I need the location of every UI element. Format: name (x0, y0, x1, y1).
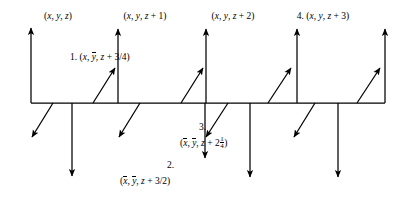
top-label-pos-3: 4. (x, y, z + 3) (297, 11, 349, 22)
down-diagonal-arrow-2 (206, 103, 228, 137)
screw-axis-diagram: (x, y, z) (x, y, z + 1) (x, y, z + 2) 4.… (0, 0, 398, 199)
up-arrows (31, 28, 385, 103)
down-diagonal-arrow-3 (294, 103, 315, 137)
top-label-pos-2: (x, y, z + 2) (212, 11, 255, 22)
up-diagonal-arrow-3 (357, 68, 380, 103)
diagram-canvas (0, 0, 398, 199)
top-label-pos-1: (x, y, z + 1) (124, 11, 167, 22)
operator-label-1: 1. (x, y, z + 3/4) (70, 52, 130, 63)
up-diagonal-arrows (93, 68, 380, 103)
up-diagonal-arrow-2 (268, 68, 291, 103)
down-diagonal-arrow-1 (119, 103, 140, 137)
operator-label-3-number: 3. (199, 122, 206, 133)
operator-label-3: (x, y, z + 214) (180, 136, 227, 150)
down-diagonal-arrows (32, 103, 315, 137)
operator-label-2: (x, y, z + 3/2) (120, 176, 170, 187)
operator-label-2-number: 2. (167, 160, 174, 171)
top-label-pos-0: (x, y, z) (44, 11, 72, 22)
up-diagonal-arrow-0 (93, 68, 115, 103)
down-diagonal-arrow-0 (32, 103, 53, 137)
up-diagonal-arrow-1 (181, 68, 203, 103)
